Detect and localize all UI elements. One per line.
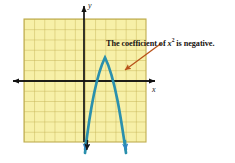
parabola-right-arrowhead — [125, 140, 126, 150]
x-axis-label: x — [152, 85, 156, 94]
y-axis-label: y — [88, 1, 92, 10]
annotation-prefix: The coefficient of — [106, 39, 168, 48]
parabola-left-arrowhead-shadow — [87, 140, 88, 150]
annotation-label: The coefficient of x2 is negative. — [106, 35, 214, 49]
parabola-left-arrowhead — [85, 140, 86, 150]
parabola-graph-figure — [0, 0, 235, 163]
annotation-suffix: is negative. — [174, 39, 214, 48]
